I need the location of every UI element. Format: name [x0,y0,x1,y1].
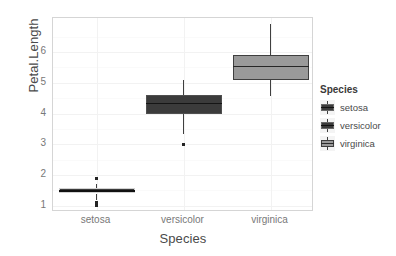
x-tick-label: setosa [56,214,136,225]
x-tick-label: virginica [230,214,310,225]
legend-item-versicolor[interactable]: versicolor [320,117,396,134]
y-tick-label: 3 [28,138,46,148]
legend-label: versicolor [340,120,381,131]
x-axis-title: Species [52,231,314,246]
legend-key-icon [320,136,335,151]
legend-key-median [321,107,334,108]
y-tick-label: 4 [28,108,46,118]
y-axis-tick-labels: 123456 [26,0,46,256]
whisker-upper [270,24,271,55]
legend: Species setosaversicolorvirginica [320,84,396,153]
median-line [233,66,309,68]
x-tick-label: versicolor [143,214,223,225]
legend-title: Species [320,84,396,95]
box-plot-figure: Petal.Length 123456 setosaversicolorvirg… [0,0,396,256]
y-tick-label: 2 [28,169,46,179]
y-tick-label: 6 [28,46,46,56]
box-iqr [233,55,309,80]
legend-key-median [321,125,334,126]
y-tick-label: 5 [28,77,46,87]
legend-item-setosa[interactable]: setosa [320,99,396,116]
plot-panel [52,17,313,211]
whisker-lower [270,80,271,97]
boxplot-virginica [53,18,313,210]
legend-label: virginica [340,138,375,149]
legend-key-icon [320,100,335,115]
legend-item-virginica[interactable]: virginica [320,135,396,152]
legend-key-icon [320,118,335,133]
legend-label: setosa [340,102,368,113]
y-tick-label: 1 [28,200,46,210]
legend-key-median [321,143,334,144]
